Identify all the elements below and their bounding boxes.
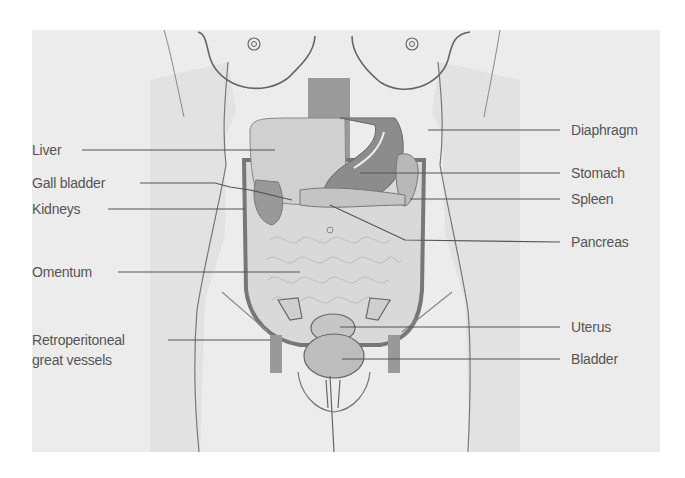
right-great-vessel xyxy=(388,335,400,373)
label-pancreas: Pancreas xyxy=(571,234,629,250)
bladder-shape xyxy=(304,334,364,378)
label-liver: Liver xyxy=(32,142,61,158)
label-stomach: Stomach xyxy=(571,165,625,181)
label-kidneys: Kidneys xyxy=(32,201,80,217)
label-retroperitoneal: Retroperitoneal xyxy=(32,332,125,348)
label-omentum: Omentum xyxy=(32,264,92,280)
label-gall-bladder: Gall bladder xyxy=(32,175,105,191)
left-great-vessel xyxy=(270,335,282,373)
label-spleen: Spleen xyxy=(571,191,613,207)
label-great-vessels: great vessels xyxy=(32,352,112,368)
label-diaphragm: Diaphragm xyxy=(571,122,638,138)
label-uterus: Uterus xyxy=(571,319,611,335)
label-bladder: Bladder xyxy=(571,351,618,367)
